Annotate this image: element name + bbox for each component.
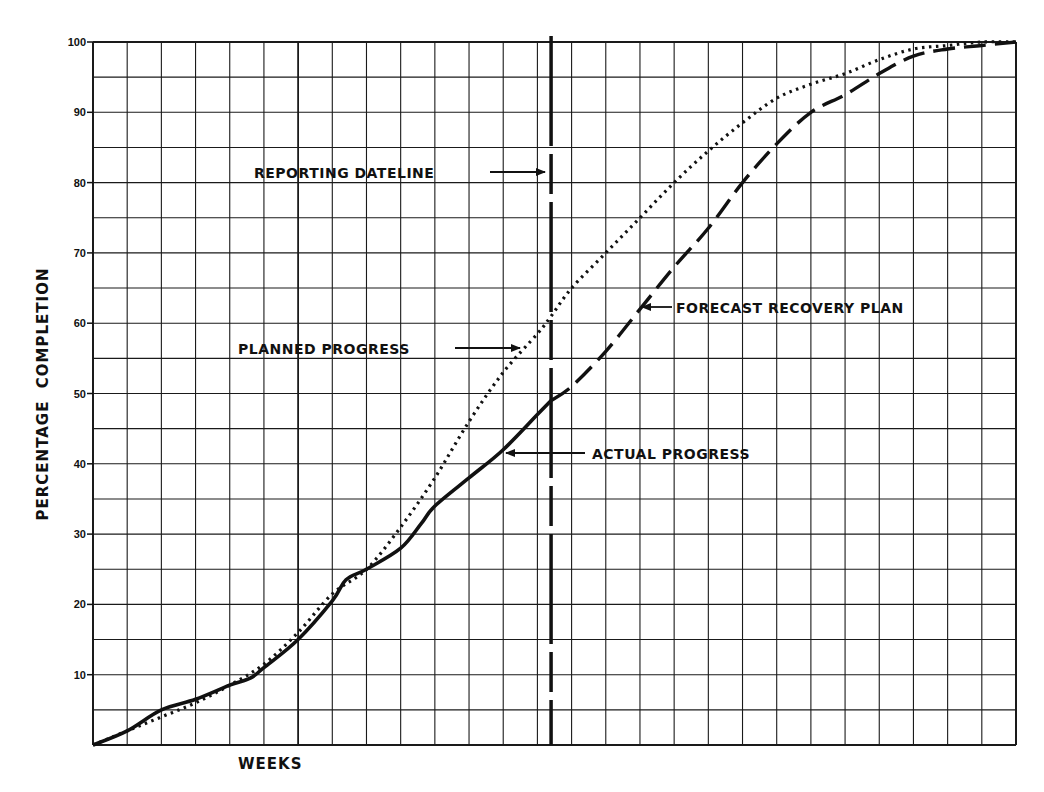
y-tick-label: 20 bbox=[74, 598, 86, 610]
y-tick-label: 100 bbox=[68, 36, 86, 48]
chart-grid bbox=[93, 42, 1016, 745]
annotations: REPORTING DATELINEPLANNED PROGRESSFORECA… bbox=[238, 165, 904, 462]
y-tick-label: 30 bbox=[74, 528, 86, 540]
annotation-actual: ACTUAL PROGRESS bbox=[592, 446, 750, 462]
s-curve-progress-chart: 102030405060708090100 REPORTING DATELINE… bbox=[0, 0, 1044, 792]
y-tick-label: 70 bbox=[74, 247, 86, 259]
annotation-dateline: REPORTING DATELINE bbox=[254, 165, 434, 181]
y-tick-label: 60 bbox=[74, 317, 86, 329]
annotation-forecast: FORECAST RECOVERY PLAN bbox=[676, 300, 904, 316]
x-axis-title: WEEKS bbox=[238, 755, 302, 773]
y-axis-ticks: 102030405060708090100 bbox=[68, 36, 93, 681]
y-tick-label: 40 bbox=[74, 458, 86, 470]
y-tick-label: 50 bbox=[74, 388, 86, 400]
annotation-planned: PLANNED PROGRESS bbox=[238, 341, 410, 357]
y-tick-label: 90 bbox=[74, 106, 86, 118]
y-axis-title: PERCENTAGE COMPLETION bbox=[34, 268, 52, 521]
y-tick-label: 80 bbox=[74, 177, 86, 189]
y-tick-label: 10 bbox=[74, 669, 86, 681]
